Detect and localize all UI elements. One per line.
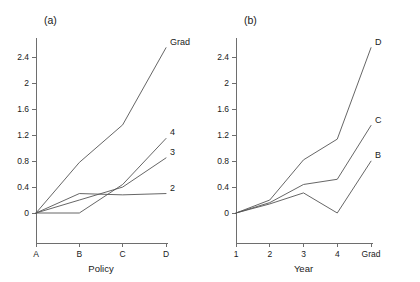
x-axis-tick-label: 3 — [301, 249, 306, 259]
y-axis-tick-label: 2.4 — [217, 52, 229, 62]
y-axis-tick-label: 0.8 — [17, 156, 29, 166]
panel-a-plot: (a)00.40.81.21.622.4ABCDPolicyGrad432 — [0, 0, 205, 282]
y-axis-tick-label: 0 — [24, 208, 29, 218]
series-label-D: D — [375, 37, 382, 47]
series-line-2 — [36, 194, 166, 213]
y-axis-tick-label: 2 — [24, 78, 29, 88]
x-axis-tick-label: Grad — [362, 249, 381, 259]
series-label-3: 3 — [170, 147, 175, 157]
y-axis-tick-label: 2 — [224, 78, 229, 88]
y-axis-tick-label: 0.4 — [17, 182, 29, 192]
series-label-C: C — [375, 115, 382, 125]
x-axis-title: Policy — [88, 263, 114, 274]
y-axis-tick-label: 0 — [224, 208, 229, 218]
x-axis-title: Year — [294, 263, 313, 274]
series-line-4 — [36, 138, 166, 213]
series-label-B: B — [375, 150, 381, 160]
y-axis-tick-label: 0.8 — [217, 156, 229, 166]
series-line-Grad — [36, 48, 166, 213]
series-label-Grad: Grad — [170, 37, 190, 47]
x-axis-tick-label: B — [76, 249, 82, 259]
x-axis-tick-label: 1 — [234, 249, 239, 259]
x-axis-tick-label: D — [163, 249, 169, 259]
panel-tag-label: (a) — [44, 14, 57, 26]
panel-tag-label: (b) — [244, 14, 257, 26]
series-label-4: 4 — [170, 127, 175, 137]
x-axis-tick-label: A — [33, 249, 39, 259]
chart-panel-b: (b)00.40.81.21.622.41234GradYearDCB — [205, 0, 420, 282]
y-axis-tick-label: 0.4 — [217, 182, 229, 192]
x-axis-tick-label: C — [120, 249, 126, 259]
series-line-D — [236, 48, 371, 213]
series-label-2: 2 — [170, 183, 175, 193]
y-axis-tick-label: 1.2 — [17, 130, 29, 140]
y-axis-tick-label: 1.6 — [217, 104, 229, 114]
y-axis-tick-label: 1.2 — [217, 130, 229, 140]
figure-container: (a)00.40.81.21.622.4ABCDPolicyGrad432 (b… — [0, 0, 420, 282]
x-axis-tick-label: 4 — [335, 249, 340, 259]
y-axis-tick-label: 1.6 — [17, 104, 29, 114]
x-axis-tick-label: 2 — [267, 249, 272, 259]
chart-panel-a: (a)00.40.81.21.622.4ABCDPolicyGrad432 — [0, 0, 205, 282]
y-axis-tick-label: 2.4 — [17, 52, 29, 62]
series-line-C — [236, 126, 371, 214]
panel-b-plot: (b)00.40.81.21.622.41234GradYearDCB — [205, 0, 420, 282]
